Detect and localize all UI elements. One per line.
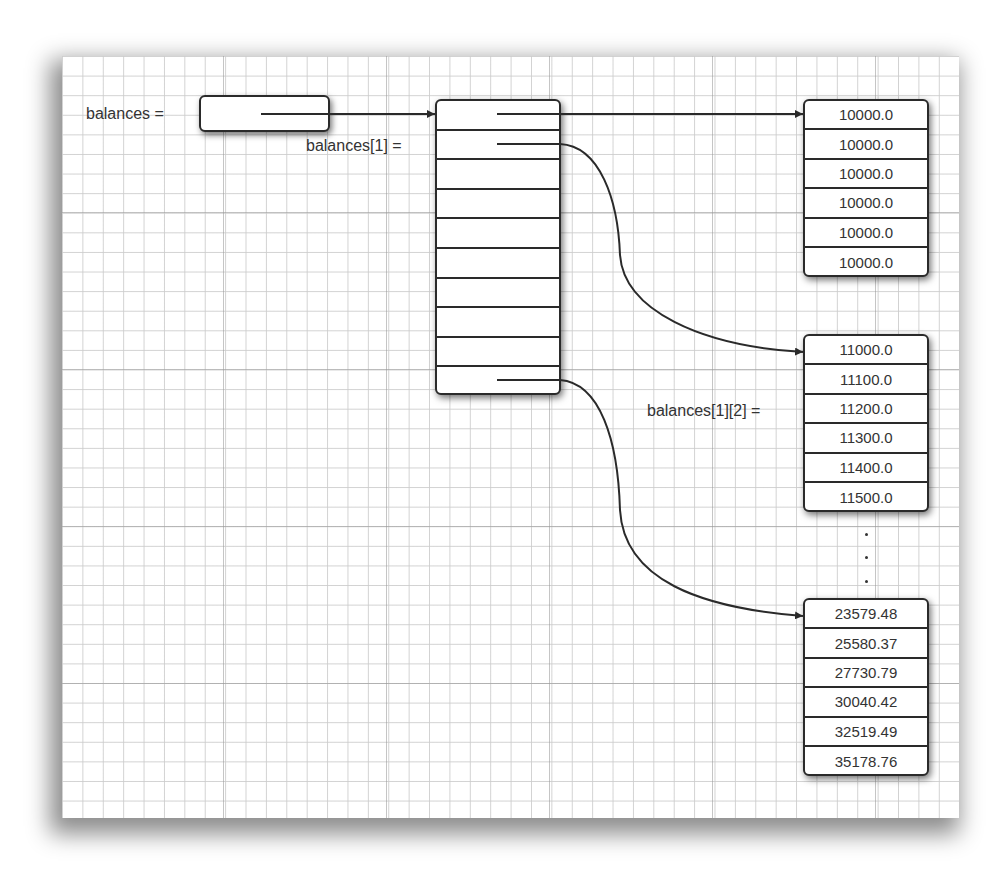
outer-array-row-9 xyxy=(437,367,559,395)
array-cell: 11100.0 xyxy=(805,365,927,394)
outer-array-row-6 xyxy=(437,279,559,309)
balances-label: balances = xyxy=(86,105,164,123)
array-cell: 32519.49 xyxy=(805,718,927,747)
outer-array-row-5 xyxy=(437,249,559,279)
array-cell: 11300.0 xyxy=(805,424,927,453)
array-cell: 27730.79 xyxy=(805,659,927,688)
balances-1-label: balances[1] = xyxy=(306,137,402,155)
array-cell: 10000.0 xyxy=(805,130,927,159)
ellipsis-dot xyxy=(865,580,868,583)
balances-1-2-label: balances[1][2] = xyxy=(647,402,760,420)
array-cell: 11000.0 xyxy=(805,336,927,365)
array-cell: 11200.0 xyxy=(805,395,927,424)
array-cell: 30040.42 xyxy=(805,688,927,717)
outer-array-row-4 xyxy=(437,219,559,249)
array-cell: 23579.48 xyxy=(805,600,927,629)
array-cell: 10000.0 xyxy=(805,219,927,248)
array-cell: 10000.0 xyxy=(805,101,927,130)
balances-variable-box xyxy=(199,95,330,132)
inner-array-9: 23579.48 25580.37 27730.79 30040.42 3251… xyxy=(803,598,929,776)
inner-array-0: 10000.0 10000.0 10000.0 10000.0 10000.0 … xyxy=(803,99,929,277)
array-cell: 10000.0 xyxy=(805,160,927,189)
ellipsis-dot xyxy=(865,556,868,559)
outer-array-row-7 xyxy=(437,308,559,338)
outer-array xyxy=(435,99,561,395)
array-cell: 11500.0 xyxy=(805,483,927,512)
ellipsis-dot xyxy=(865,533,868,536)
outer-array-row-8 xyxy=(437,338,559,368)
outer-array-row-1 xyxy=(437,131,559,161)
outer-array-row-3 xyxy=(437,190,559,220)
array-cell: 35178.76 xyxy=(805,747,927,776)
outer-array-row-0 xyxy=(437,101,559,131)
inner-array-1: 11000.0 11100.0 11200.0 11300.0 11400.0 … xyxy=(803,334,929,512)
array-cell: 10000.0 xyxy=(805,248,927,277)
array-cell: 10000.0 xyxy=(805,189,927,218)
outer-array-row-2 xyxy=(437,160,559,190)
array-cell: 25580.37 xyxy=(805,629,927,658)
array-cell: 11400.0 xyxy=(805,454,927,483)
